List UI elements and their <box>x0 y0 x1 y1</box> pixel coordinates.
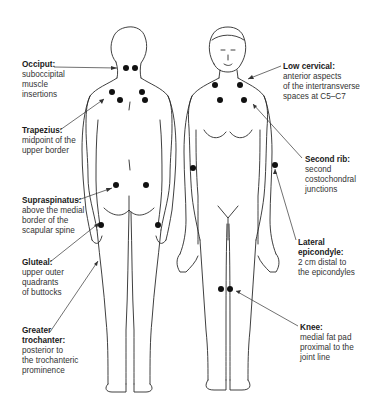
label-desc: posterior to <box>22 346 92 356</box>
label-desc: spaces at C5–C7 <box>283 92 360 102</box>
label-desc: the trochanteric <box>22 356 92 366</box>
label-lateral-epicondyle: Lateral epicondyle: 2 cm distal to the e… <box>298 238 364 278</box>
label-second-rib: Second rib: second costochondral junctio… <box>305 155 356 195</box>
label-desc: upper outer <box>22 268 64 278</box>
label-desc: costochondral <box>305 175 356 185</box>
label-title: Gluteal: <box>22 258 64 268</box>
label-occiput: Occiput: suboccipital muscle insertions <box>22 60 65 100</box>
label-desc: of the intertransverse <box>283 82 360 92</box>
label-desc: scapular spine <box>22 226 84 236</box>
label-low-cervical: Low cervical: anterior aspects of the in… <box>283 62 360 102</box>
leader-lines <box>50 66 302 332</box>
label-desc: above the medial <box>22 206 84 216</box>
label-desc: muscle <box>22 80 65 90</box>
label-desc: prominence <box>22 366 92 376</box>
label-title: Trapezius: <box>22 126 76 136</box>
tender-points-diagram: Occiput: suboccipital muscle insertions … <box>0 0 372 409</box>
anterior-figure <box>177 27 279 390</box>
label-trapezius: Trapezius: midpoint of the upper border <box>22 126 76 156</box>
tender-points <box>98 65 278 292</box>
label-desc: proximal to the <box>300 343 354 353</box>
label-desc: suboccipital <box>22 70 65 80</box>
label-title: Second rib: <box>305 155 356 165</box>
label-title: Supraspinatus: <box>22 196 84 206</box>
label-desc: second <box>305 165 356 175</box>
label-desc: insertions <box>22 90 65 100</box>
label-desc: border of the <box>22 216 84 226</box>
label-title: Knee: <box>300 323 354 333</box>
label-greater-trochanter: Greater trochanter: posterior to the tro… <box>22 326 92 376</box>
label-desc: midpoint of the <box>22 136 76 146</box>
label-desc: of buttocks <box>22 288 64 298</box>
label-title: Occiput: <box>22 60 65 70</box>
label-title: Lateral epicondyle: <box>298 238 364 258</box>
label-knee: Knee: medial fat pad proximal to the joi… <box>300 323 354 363</box>
label-desc: junctions <box>305 185 356 195</box>
label-desc: anterior aspects <box>283 72 360 82</box>
label-desc: quadrants <box>22 278 64 288</box>
label-desc: 2 cm distal to <box>298 258 364 268</box>
label-title: Low cervical: <box>283 62 360 72</box>
label-title: Greater trochanter: <box>22 326 92 346</box>
label-desc: medial fat pad <box>300 333 354 343</box>
posterior-figure <box>82 27 176 392</box>
label-desc: the epicondyles <box>298 268 364 278</box>
label-desc: joint line <box>300 353 354 363</box>
label-gluteal: Gluteal: upper outer quadrants of buttoc… <box>22 258 64 298</box>
label-supraspinatus: Supraspinatus: above the medial border o… <box>22 196 84 236</box>
label-desc: upper border <box>22 146 76 156</box>
